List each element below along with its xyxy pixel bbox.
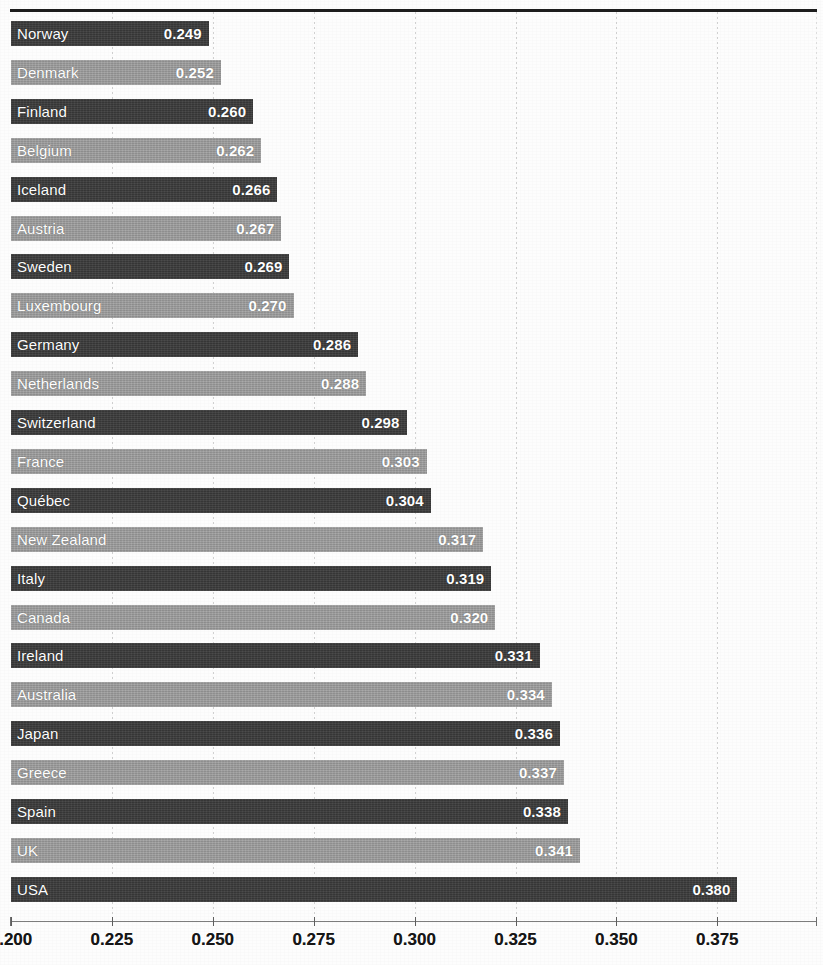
plot-top-border [10,9,817,12]
bar: Switzerland0.298 [11,410,407,435]
bar-row: Finland0.260 [0,99,823,124]
tick-mark [616,917,617,926]
bar-row: Canada0.320 [0,605,823,630]
bar-category-label: USA [17,882,48,897]
x-tick-label: 0.275 [292,930,335,950]
bar-value-label: 0.286 [313,337,351,352]
bar-row: Spain0.338 [0,799,823,824]
bar-value-label: 0.249 [164,26,202,41]
bar-value-label: 0.260 [208,104,246,119]
bar-category-label: Italy [17,571,45,586]
bar: Ireland0.331 [11,643,540,668]
bar-value-label: 0.341 [535,843,573,858]
bar: Netherlands0.288 [11,371,366,396]
bar-category-label: Spain [17,804,56,819]
bar-category-label: Canada [17,610,70,625]
bar: Sweden0.269 [11,254,289,279]
bar-row: Iceland0.266 [0,177,823,202]
bar-row: France0.303 [0,449,823,474]
bar-category-label: Japan [17,726,58,741]
bar-category-label: Belgium [17,143,72,158]
bar: Denmark0.252 [11,60,221,85]
x-tick-label: 0.225 [91,930,134,950]
bar-row: New Zealand0.317 [0,527,823,552]
bar-row: USA0.380 [0,877,823,902]
bar-row: Italy0.319 [0,566,823,591]
x-tick-label: 0.250 [192,930,235,950]
bar-row: Norway0.249 [0,21,823,46]
bar-value-label: 0.338 [523,804,561,819]
bar-row: Japan0.336 [0,721,823,746]
bar-row: Australia0.334 [0,682,823,707]
bar-row: Switzerland0.298 [0,410,823,435]
bar-category-label: Finland [17,104,67,119]
bar-category-label: Switzerland [17,415,96,430]
bar-value-label: 0.252 [176,65,214,80]
bar-value-label: 0.319 [446,571,484,586]
bar: France0.303 [11,449,427,474]
bar-category-label: Austria [17,221,64,236]
bar-value-label: 0.270 [248,298,286,313]
bar-category-label: Greece [17,765,67,780]
bar-category-label: Netherlands [17,376,99,391]
bar-category-label: Ireland [17,648,64,663]
bar: New Zealand0.317 [11,527,483,552]
x-tick-label: 0.325 [494,930,537,950]
bar-row: Denmark0.252 [0,60,823,85]
bar: Luxembourg0.270 [11,293,294,318]
bar: Belgium0.262 [11,138,261,163]
bar: Finland0.260 [11,99,253,124]
x-axis-line [10,921,817,922]
bar-category-label: Luxembourg [17,298,101,313]
bar-chart: Norway0.249Denmark0.252Finland0.260Belgi… [0,0,823,965]
bar-value-label: 0.262 [216,143,254,158]
bar: Iceland0.266 [11,177,277,202]
bar: USA0.380 [11,877,737,902]
bar: Canada0.320 [11,605,495,630]
bar: UK0.341 [11,838,580,863]
x-tick-label: 0.300 [393,930,436,950]
bar-category-label: Germany [17,337,79,352]
bar-value-label: 0.266 [232,182,270,197]
bar: Norway0.249 [11,21,209,46]
tick-mark [112,917,113,926]
bar: Spain0.338 [11,799,568,824]
bar: Greece0.337 [11,760,564,785]
tick-mark [213,917,214,926]
bar-value-label: 0.304 [386,493,424,508]
bar-category-label: Norway [17,26,68,41]
bar-row: Germany0.286 [0,332,823,357]
bar: Japan0.336 [11,721,560,746]
bar-value-label: 0.337 [519,765,557,780]
bar-category-label: New Zealand [17,532,106,547]
x-tick-label: 0.200 [0,930,32,950]
bar-category-label: Sweden [17,259,72,274]
bar-value-label: 0.331 [495,648,533,663]
bar-value-label: 0.303 [382,454,420,469]
bar-value-label: 0.320 [450,610,488,625]
tick-mark [314,917,315,926]
bar-row: Netherlands0.288 [0,371,823,396]
bar-category-label: France [17,454,64,469]
bar-value-label: 0.380 [692,882,730,897]
bar-value-label: 0.336 [515,726,553,741]
bar-category-label: Iceland [17,182,66,197]
tick-mark [516,917,517,926]
bar: Québec0.304 [11,488,431,513]
bar-row: Austria0.267 [0,216,823,241]
bar-value-label: 0.269 [244,259,282,274]
bar-row: Québec0.304 [0,488,823,513]
bar-category-label: UK [17,843,38,858]
tick-mark [717,917,718,926]
bar: Austria0.267 [11,216,281,241]
bar-value-label: 0.298 [361,415,399,430]
bar-row: Ireland0.331 [0,643,823,668]
bar: Germany0.286 [11,332,358,357]
bar-row: Sweden0.269 [0,254,823,279]
x-tick-label: 0.375 [696,930,739,950]
bar-row: Greece0.337 [0,760,823,785]
bar-value-label: 0.334 [507,687,545,702]
plot-area: Norway0.249Denmark0.252Finland0.260Belgi… [0,0,823,930]
bar: Italy0.319 [11,566,491,591]
x-tick-label: 0.350 [595,930,638,950]
